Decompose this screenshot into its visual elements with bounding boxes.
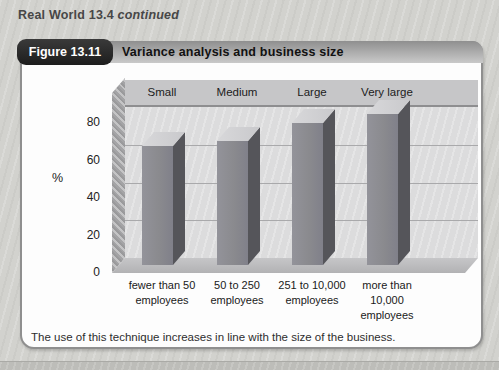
y-axis-tick-20: 20 [58, 228, 100, 242]
y-axis-tick-80: 80 [58, 115, 100, 129]
x-axis-category-label: more than 10,000 employees [352, 278, 422, 323]
bar-side-face [398, 100, 410, 265]
chart-bar [292, 109, 335, 265]
kicker-continued-label: continued [118, 8, 180, 22]
y-axis-tick-60: 60 [58, 153, 100, 167]
figure-number-badge: Figure 13.11 [17, 39, 113, 65]
page-bottom-strip [0, 361, 499, 370]
y-axis-label: % [52, 171, 63, 185]
section-kicker: Real World 13.4 continued [18, 8, 179, 22]
bar-side-face [323, 109, 335, 265]
bar-front-face [142, 146, 173, 265]
bar-front-face [217, 141, 248, 265]
textbook-figure-page: Real World 13.4 continued Variance analy… [0, 0, 499, 370]
y-axis-tick-40: 40 [58, 190, 100, 204]
chart-left-wall [112, 78, 125, 273]
figure-title: Variance analysis and business size [122, 45, 344, 59]
figure-caption: The use of this technique increases in l… [31, 331, 471, 343]
bar-side-face [173, 132, 185, 265]
chart-bar [142, 132, 185, 265]
bar-side-face [248, 127, 260, 265]
y-axis-tick-0: 0 [58, 265, 100, 279]
bar-front-face [367, 114, 398, 265]
bar-front-face [292, 123, 323, 265]
x-axis-category-label: 251 to 10,000 employees [264, 278, 360, 308]
chart-bar [217, 127, 260, 265]
chart-bar [367, 100, 410, 265]
kicker-title: Real World 13.4 [18, 8, 114, 22]
size-group-label: Very large [342, 86, 432, 100]
